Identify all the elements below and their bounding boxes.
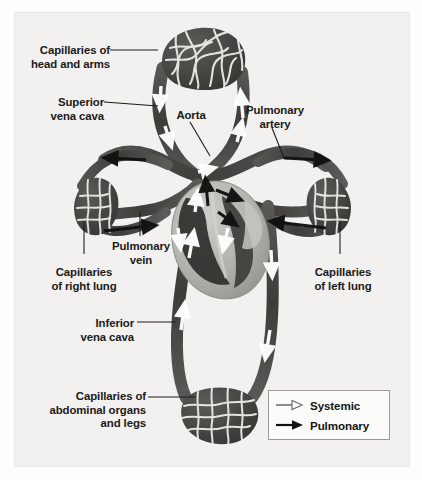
capillaries-abdominal-bed bbox=[181, 388, 258, 447]
label-capillaries-right-lung: Capillaries of right lung bbox=[24, 266, 144, 293]
legend-item-pulmonary: Pulmonary bbox=[275, 415, 369, 435]
circulatory-system-figure: Capillaries of head and arms Superior ve… bbox=[0, 0, 422, 480]
label-superior-vena-cava: Superior vena cava bbox=[22, 96, 104, 123]
arrow-ivc-up-3 bbox=[195, 196, 197, 212]
legend-label-pulmonary: Pulmonary bbox=[310, 419, 369, 432]
legend-label-systemic: Systemic bbox=[310, 399, 360, 412]
label-capillaries-left-lung: Capillaries of left lung bbox=[288, 266, 398, 293]
arrow-pa-right-out bbox=[110, 158, 146, 160]
arrow-pa-left-out bbox=[284, 158, 322, 160]
hollow-arrow-icon bbox=[275, 399, 305, 411]
label-aorta: Aorta bbox=[168, 109, 214, 123]
arrow-descending-aorta-down bbox=[271, 250, 272, 272]
label-capillaries-abdominal-organs-and-legs: Capillaries of abdominal organs and legs bbox=[22, 390, 146, 431]
arrow-pulm-trunk-up bbox=[206, 184, 208, 206]
leader-aorta bbox=[190, 122, 210, 156]
label-inferior-vena-cava: Inferior vena cava bbox=[52, 317, 134, 344]
label-pulmonary-vein: Pulmonary vein bbox=[104, 240, 178, 267]
capillaries-head-and-arms-bed bbox=[162, 28, 245, 90]
arrow-heart-pulm-vein-in bbox=[178, 228, 180, 244]
label-capillaries-head-and-arms: Capillaries of head and arms bbox=[22, 44, 110, 71]
leader-superior-vena-cava bbox=[104, 102, 158, 106]
legend-item-systemic: Systemic bbox=[275, 395, 360, 415]
solid-arrow-icon bbox=[275, 419, 305, 431]
arrow-svc-down bbox=[160, 86, 161, 104]
legend: Systemic Pulmonary bbox=[268, 390, 390, 440]
label-pulmonary-artery: Pulmonary artery bbox=[238, 104, 312, 131]
